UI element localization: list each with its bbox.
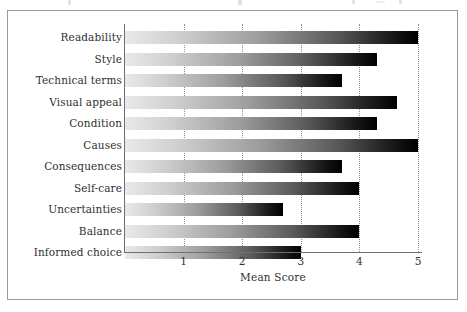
category-label: Style [12,49,122,71]
bar-row [125,27,421,49]
x-tick-label: 1 [180,255,187,267]
category-label: Technical terms [12,70,122,92]
bar[interactable] [125,182,359,195]
x-tick-label: 2 [239,255,246,267]
x-axis-tick-labels: 12345 [125,255,421,271]
y-axis-category-labels: Readability Style Technical terms Visual… [12,27,122,264]
category-label: Readability [12,27,122,49]
bar[interactable] [125,203,283,216]
bar[interactable] [125,117,377,130]
bar[interactable] [125,160,342,173]
plot-area [125,24,421,252]
bar[interactable] [125,139,418,152]
category-label: Consequences [12,156,122,178]
bar-row [125,178,421,200]
x-axis-line [124,252,422,253]
bar-series [125,27,421,264]
category-label: Uncertainties [12,199,122,221]
bar-row [125,221,421,243]
x-tick-label: 4 [356,255,363,267]
x-tick-label: 3 [297,255,304,267]
bar[interactable] [125,31,418,44]
bar[interactable] [125,74,342,87]
category-label: Causes [12,135,122,157]
bar[interactable] [125,96,397,109]
chart-figure-frame: Readability Style Technical terms Visual… [7,10,458,300]
bar-row [125,156,421,178]
x-tick-label: 5 [415,255,422,267]
bar-row [125,92,421,114]
x-axis-title: Mean Score [125,271,421,283]
bar-row [125,49,421,71]
bar-row [125,113,421,135]
y-axis-line [124,24,125,253]
category-label: Visual appeal [12,92,122,114]
bar-row [125,70,421,92]
bar[interactable] [125,225,359,238]
category-label: Self-care [12,178,122,200]
bar-row [125,199,421,221]
category-label: Condition [12,113,122,135]
bar-row [125,135,421,157]
scan-edge-artifact [0,0,467,7]
category-label: Balance [12,221,122,243]
bar[interactable] [125,53,377,66]
category-label: Informed choice [12,242,122,264]
